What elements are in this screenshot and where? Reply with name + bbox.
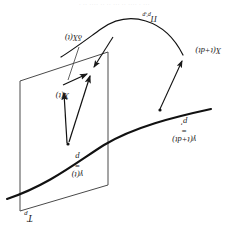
vector-x-t-label: X(t) [56,91,69,100]
figure-root: · ·· ···· ·· ·· ··· ·· ···· · ··· [0,0,229,237]
point-p-prime-gamma: γ(t+dt) [172,135,196,144]
point-p-value: p [72,152,83,161]
transport-operator-subscript: p′,p [142,12,150,18]
point-p-marker [66,142,69,145]
point-p-prime-equals: = [172,126,196,135]
point-p-label: γ(t) = p [72,152,83,179]
tangent-space-label: Tp [24,211,33,223]
transport-result-arrow [94,37,113,67]
tangent-plane [20,52,108,211]
transport-operator-symbol: Π [151,14,157,24]
point-p-prime-value: p′ [172,117,196,126]
point-p-equals: = [72,161,83,170]
rotated-diagram-canvas: Tp γ(t) = p γ(t+dt) = p′ X(t) δX(t) X(t+… [0,0,229,237]
transport-mapping-arrow [160,61,182,109]
transported-vector [69,76,90,142]
transport-operator-label: Πp′,p [142,12,157,23]
tangent-space-subscript: p [24,211,27,218]
point-p-prime-marker [158,108,161,111]
point-p-prime-label: γ(t+dt) = p′ [172,117,196,144]
vector-x-t-dt-label: X(t+dt) [195,46,221,55]
vector-delta-x-label: δX(t) [65,33,82,42]
point-p-gamma: γ(t) [72,170,83,179]
delta-vector [63,74,87,85]
